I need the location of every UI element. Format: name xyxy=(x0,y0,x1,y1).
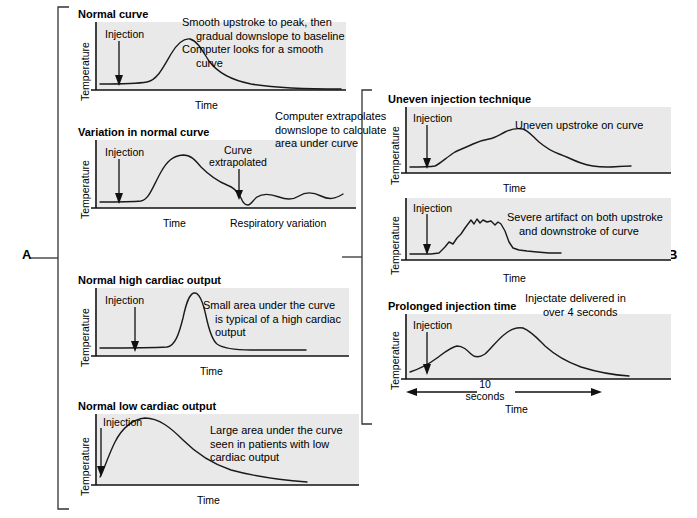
panel-normal-low-cardiac-output: Normal low cardiac output Temperature In… xyxy=(75,400,365,510)
annotation-line: Computer looks for a smooth xyxy=(182,43,362,57)
injection-label: Injection xyxy=(413,112,452,124)
y-axis-label: Temperature xyxy=(389,216,401,275)
panel-variation-in-normal-curve: Variation in normal curve Temperature In… xyxy=(75,126,375,231)
panel-annotation: Severe artifact on both upstroke and dow… xyxy=(507,211,692,238)
extrapolation-arrow-icon xyxy=(233,169,247,201)
panel-annotation: Large area under the curve seen in patie… xyxy=(210,424,375,465)
thermodilution-curves-figure: A B Normal curve Temperature Injection S… xyxy=(0,0,697,518)
y-axis-label: Temperature xyxy=(79,42,91,101)
x-axis-label: Time xyxy=(195,99,218,111)
injection-label: Injection xyxy=(103,416,142,428)
injection-label: Injection xyxy=(413,202,452,214)
annotation-line: over 4 seconds xyxy=(525,306,685,320)
panel-title: Normal high cardiac output xyxy=(78,274,221,286)
respiratory-variation-label: Respiratory variation xyxy=(230,217,326,229)
injection-label: Injection xyxy=(105,294,144,306)
y-axis-label: Temperature xyxy=(389,331,401,390)
y-axis-label: Temperature xyxy=(389,126,401,185)
panel-normal-curve: Normal curve Temperature Injection Smoot… xyxy=(75,8,350,113)
y-axis-label: Temperature xyxy=(79,437,91,496)
x-axis-label: Time xyxy=(200,365,223,377)
panel-title: Variation in normal curve xyxy=(78,126,209,138)
curve-extrapolated-line: extrapolated xyxy=(203,156,273,168)
injection-label: Injection xyxy=(105,28,144,40)
bracket-group-a xyxy=(55,5,75,513)
panel-title: Uneven injection technique xyxy=(388,93,531,105)
x-axis-label: Time xyxy=(505,403,528,415)
injection-arrow-icon xyxy=(421,332,435,376)
annotation-line: Large area under the curve xyxy=(210,424,375,438)
panel-uneven-injection-technique: Uneven injection technique Temperature I… xyxy=(385,93,665,198)
injection-arrow-icon xyxy=(421,125,435,170)
y-axis-label: Temperature xyxy=(79,160,91,219)
annotation-line: cardiac output xyxy=(210,451,375,465)
injection-arrow-icon xyxy=(129,307,143,353)
x-axis-label: Time xyxy=(503,272,526,284)
annotation-line: output xyxy=(203,326,363,340)
panel-title: Prolonged injection time xyxy=(388,300,516,312)
x-axis-label: Time xyxy=(163,217,186,229)
annotation-line: and downstroke of curve xyxy=(507,225,692,239)
panel-severe-artifact: Temperature Injection Severe artifact on… xyxy=(385,190,665,290)
panel-annotation: Smooth upstroke to peak, then gradual do… xyxy=(182,16,362,70)
duration-value: 10 xyxy=(455,378,515,390)
panel-annotation: Small area under the curve is typical of… xyxy=(203,299,363,340)
injection-arrow-icon xyxy=(421,214,435,256)
injection-arrow-icon xyxy=(113,159,127,205)
panel-prolonged-injection-time: Prolonged injection time Temperature Inj… xyxy=(385,300,670,425)
annotation-line: Small area under the curve xyxy=(203,299,363,313)
curve-extrapolated-line: Curve xyxy=(203,144,273,156)
duration-unit: seconds xyxy=(455,390,515,402)
annotation-line: Severe artifact on both upstroke xyxy=(507,211,692,225)
y-axis-label: Temperature xyxy=(79,308,91,367)
x-axis-label: Time xyxy=(197,494,220,506)
annotation-line: Injectate delivered in xyxy=(525,292,685,306)
panel-title: Normal low cardiac output xyxy=(78,400,216,412)
annotation-line: is typical of a high cardiac xyxy=(203,313,363,327)
curve-extrapolated-label: Curve extrapolated xyxy=(203,144,273,168)
panel-annotation: Uneven upstroke on curve xyxy=(515,119,685,133)
panel-title: Normal curve xyxy=(78,8,148,20)
annotation-line: gradual downslope to baseline xyxy=(182,30,362,44)
annotation-line: Smooth upstroke to peak, then xyxy=(182,16,362,30)
duration-marker-label: 10 seconds xyxy=(455,378,515,402)
injection-label: Injection xyxy=(105,146,144,158)
panel-annotation: Injectate delivered in over 4 seconds xyxy=(525,292,685,319)
injection-label: Injection xyxy=(413,319,452,331)
annotation-line: curve xyxy=(182,57,362,71)
annotation-line: Uneven upstroke on curve xyxy=(515,119,685,133)
annotation-line: seen in patients with low xyxy=(210,438,375,452)
panel-normal-high-cardiac-output: Normal high cardiac output Temperature I… xyxy=(75,274,355,379)
injection-arrow-icon xyxy=(113,41,127,87)
injection-arrow-icon xyxy=(95,428,109,478)
group-a-label: A xyxy=(22,247,32,262)
